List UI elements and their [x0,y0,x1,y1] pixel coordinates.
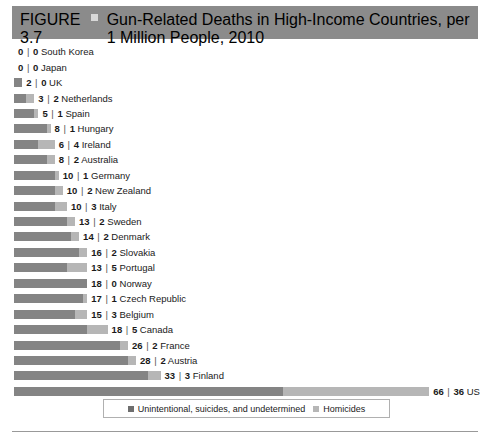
bottom-divider [12,431,478,432]
chart-legend: Unintentional, suicides, and undetermine… [103,399,390,418]
bar-segment-homicides [38,140,54,149]
value-separator: | [94,231,104,242]
value-separator: | [102,293,112,304]
bar-row-label: 10 | 1 Germany [63,170,130,181]
figure-number: FIGURE 3.7 [20,11,81,47]
value-unintentional: 18 [91,278,102,289]
stacked-bar [14,387,429,396]
bar-row-label: 8 | 1 Hungary [55,123,114,134]
value-separator: | [122,324,132,335]
bar-row-label: 18 | 5 Canada [112,324,174,335]
country-name: South Korea [38,46,93,57]
bar-segment-unintentional [14,140,38,149]
bar-segment-homicides [47,124,51,133]
bar-segment-homicides [79,248,87,257]
value-unintentional: 5 [42,108,47,119]
bar-segment-homicides [83,294,87,303]
bar-segment-homicides [47,155,55,164]
bar-row-label: 66 | 36 US [433,386,480,397]
value-unintentional: 13 [79,216,90,227]
country-name: Austria [166,355,198,366]
country-name: Germany [88,170,130,181]
bar-row: 28 | 2 Austria [0,353,490,368]
country-name: Japan [38,62,67,73]
bar-segment-homicides [55,202,67,211]
bar-row: 5 | 1 Spain [0,106,490,121]
bar-row-label: 14 | 2 Denmark [83,231,150,242]
bar-segment-homicides [67,263,87,272]
bar-row: 3 | 2 Netherlands [0,90,490,105]
bar-row: 18 | 0 Norway [0,276,490,291]
bar-segment-homicides [34,109,38,118]
bar-segment-unintentional [14,202,55,211]
legend-label: Unintentional, suicides, and undetermine… [138,404,306,414]
stacked-bar [14,124,51,133]
bar-segment-homicides [26,94,34,103]
value-separator: | [48,108,58,119]
bar-chart: 0 | 0 South Korea0 | 0 Japan2 | 0 UK3 | … [0,44,490,394]
bar-row: 18 | 5 Canada [0,322,490,337]
stacked-bar [14,294,87,303]
value-separator: | [44,93,54,104]
bar-segment-homicides [75,310,87,319]
value-separator: | [102,278,112,289]
bar-row: 14 | 2 Denmark [0,229,490,244]
value-unintentional: 14 [83,231,94,242]
page-title: Gun-Related Deaths in High-Income Countr… [107,11,472,47]
value-separator: | [60,123,70,134]
value-unintentional: 3 [38,93,43,104]
bar-row: 10 | 2 New Zealand [0,183,490,198]
bar-row-label: 18 | 0 Norway [91,278,151,289]
bar-row-label: 13 | 2 Sweden [79,216,142,227]
bar-row: 0 | 0 South Korea [0,44,490,59]
legend-swatch-icon [128,406,134,412]
stacked-bar [14,186,63,195]
bar-segment-unintentional [14,186,55,195]
country-name: Czech Republic [117,293,186,304]
bar-segment-unintentional [14,310,75,319]
value-separator: | [81,201,91,212]
stacked-bar [14,310,87,319]
value-separator: | [77,185,87,196]
country-name: Portugal [117,262,155,273]
value-separator: | [31,77,41,88]
value-unintentional: 10 [67,185,78,196]
bar-row: 0 | 0 Japan [0,59,490,74]
stacked-bar [14,202,67,211]
bar-segment-homicides [283,387,430,396]
bar-row: 10 | 3 Italy [0,198,490,213]
value-separator: | [102,247,112,258]
bar-segment-unintentional [14,263,67,272]
value-unintentional: 10 [63,170,74,181]
country-name: Hungary [75,123,114,134]
bar-segment-unintentional [14,325,87,334]
bar-row-label: 6 | 4 Ireland [59,139,111,150]
bar-row-label: 5 | 1 Spain [42,108,89,119]
value-separator: | [444,386,454,397]
bar-row-label: 0 | 0 Japan [18,62,67,73]
square-marker-icon [91,14,98,21]
value-separator: | [143,340,153,351]
bar-segment-unintentional [14,248,79,257]
stacked-bar [14,248,87,257]
value-separator: | [73,170,83,181]
value-unintentional: 33 [165,370,176,381]
bar-row-label: 2 | 0 UK [26,77,62,88]
country-name: Australia [79,154,118,165]
stacked-bar [14,325,108,334]
bar-segment-unintentional [14,109,34,118]
country-name: Spain [63,108,90,119]
bar-segment-homicides [67,217,75,226]
bar-segment-unintentional [14,341,120,350]
stacked-bar [14,232,79,241]
country-name: Norway [117,278,152,289]
stacked-bar [14,94,34,103]
bar-segment-unintentional [14,387,283,396]
country-name: Canada [137,324,173,335]
bar-row: 8 | 1 Hungary [0,121,490,136]
value-unintentional: 16 [91,247,102,258]
bar-row-label: 26 | 2 France [132,340,190,351]
bar-segment-unintentional [14,78,22,87]
bar-segment-homicides [128,356,136,365]
bar-segment-homicides [71,232,79,241]
